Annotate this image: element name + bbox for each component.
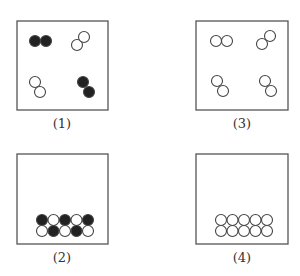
particle-diagram-figure: (1) (3) (2) (4) (0, 0, 300, 276)
hollow-particle-icon (211, 36, 222, 47)
hollow-particle-icon (218, 86, 229, 97)
panel-3: (3) (196, 21, 288, 131)
panel-1-particles (30, 32, 95, 98)
filled-particle-icon (71, 226, 82, 237)
panel-2: (2) (17, 154, 108, 265)
hollow-particle-icon (48, 215, 59, 226)
panel-1: (1) (17, 21, 108, 131)
panel-4-label: (4) (233, 250, 251, 265)
filled-particle-icon (60, 215, 71, 226)
hollow-particle-icon (222, 36, 233, 47)
hollow-particle-icon (250, 215, 261, 226)
panel-1-frame (17, 21, 108, 110)
hollow-particle-icon (250, 226, 261, 237)
hollow-particle-icon (262, 215, 273, 226)
panel-4: (4) (196, 154, 288, 265)
hollow-particle-icon (83, 226, 94, 237)
hollow-particle-icon (239, 226, 250, 237)
hollow-particle-icon (265, 31, 276, 42)
filled-particle-icon (84, 87, 95, 98)
hollow-particle-icon (227, 226, 238, 237)
hollow-particle-icon (266, 86, 277, 97)
hollow-particle-icon (260, 76, 271, 87)
hollow-particle-icon (60, 226, 71, 237)
hollow-particle-icon (71, 215, 82, 226)
filled-particle-icon (37, 215, 48, 226)
hollow-particle-icon (216, 215, 227, 226)
panel-2-label: (2) (53, 250, 71, 265)
hollow-particle-icon (79, 32, 90, 43)
panel-3-particles (211, 31, 277, 97)
filled-particle-icon (78, 77, 89, 88)
hollow-particle-icon (30, 77, 41, 88)
hollow-particle-icon (37, 226, 48, 237)
hollow-particle-icon (212, 76, 223, 87)
panel-2-particles (37, 215, 94, 237)
panel-3-label: (3) (233, 116, 251, 131)
hollow-particle-icon (216, 226, 227, 237)
filled-particle-icon (41, 36, 52, 47)
panel-4-particles (216, 215, 273, 237)
hollow-particle-icon (239, 215, 250, 226)
filled-particle-icon (48, 226, 59, 237)
hollow-particle-icon (35, 87, 46, 98)
particle-diagram-canvas: (1) (3) (2) (4) (0, 0, 300, 276)
filled-particle-icon (83, 215, 94, 226)
hollow-particle-icon (262, 226, 273, 237)
filled-particle-icon (30, 36, 41, 47)
hollow-particle-icon (227, 215, 238, 226)
panel-1-label: (1) (53, 116, 71, 131)
